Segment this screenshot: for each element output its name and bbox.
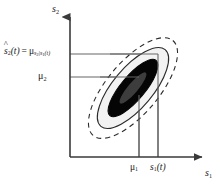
mu2-subscript: 2 <box>43 75 46 82</box>
conditional-mean-estimate-label: s2(t)=μs2|s1(t) <box>4 47 50 57</box>
estimate-equals-sign: = <box>22 46 27 56</box>
mu1-tick-label: μ1 <box>130 163 138 173</box>
y-axis-label: s2 <box>52 4 59 14</box>
x-axis-label: s1 <box>205 168 212 178</box>
mu1-subscript: 1 <box>135 166 138 172</box>
figure-container: s2 s1 s2(t)=μs2|s1(t) μ2 μ1 s1(t) <box>0 0 222 187</box>
contours-group <box>73 24 193 152</box>
y-axis-label-subscript: 2 <box>56 8 59 15</box>
figure-canvas <box>0 0 222 187</box>
s1t-tick-label: s1(t) <box>150 163 166 173</box>
mu2-tick-label: μ2 <box>38 71 46 81</box>
x-axis-label-subscript: 1 <box>209 172 212 179</box>
estimate-symbol: s <box>4 47 8 57</box>
estimate-argument: (t) <box>11 46 20 56</box>
conditional-mean-subscript: s2|s1(t) <box>34 50 50 56</box>
conditional-mean-sub-denominator-arg: (t) <box>45 50 51 56</box>
s1t-argument: (t) <box>157 162 166 172</box>
